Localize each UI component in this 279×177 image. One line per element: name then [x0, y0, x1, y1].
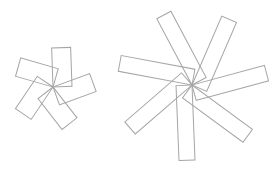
canvas-background	[0, 0, 279, 177]
screenshot-root: { "scene": { "background_color": "#fffff…	[0, 0, 279, 177]
turtle-drawing-canvas	[0, 0, 279, 177]
drawing-area	[0, 0, 279, 177]
